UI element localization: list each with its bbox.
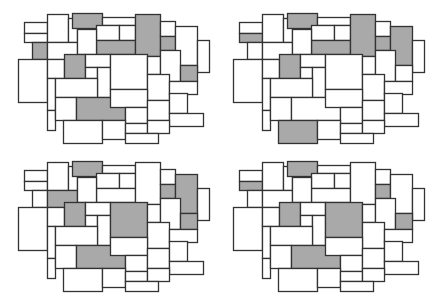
tile [103, 269, 126, 288]
panel-bottom-left [0, 148, 220, 301]
tile [341, 108, 363, 124]
tile [318, 166, 351, 174]
tile [19, 208, 48, 251]
tile [385, 94, 403, 114]
tile [48, 163, 69, 191]
tile [25, 182, 48, 191]
tile [56, 79, 98, 98]
tile [363, 57, 376, 75]
tile [161, 22, 176, 37]
tile [263, 163, 284, 191]
tile [240, 171, 263, 182]
tile [25, 34, 48, 43]
tile [263, 111, 271, 131]
tile [271, 98, 292, 121]
tile [385, 262, 419, 275]
tile [271, 79, 313, 98]
tile [170, 114, 204, 127]
highlighted-tile [161, 37, 176, 51]
tile [126, 272, 148, 282]
highlighted-tile [376, 185, 391, 199]
tile [248, 43, 263, 60]
tile [98, 68, 111, 98]
tile [271, 246, 292, 269]
tile [148, 101, 170, 121]
tile [312, 174, 335, 189]
tile [385, 230, 413, 243]
tile [318, 18, 351, 26]
highlighted-tile [280, 203, 301, 227]
highlighted-tile [376, 37, 391, 51]
highlighted-tile [33, 43, 48, 60]
tile [263, 259, 271, 279]
tile [326, 238, 363, 256]
panel-top-right [215, 0, 435, 153]
tile [318, 121, 341, 140]
tile [170, 82, 198, 95]
tile [111, 238, 148, 256]
tile [170, 242, 188, 262]
panel-top-left [0, 0, 220, 153]
tile [293, 30, 312, 55]
tile [148, 205, 161, 223]
tile [25, 171, 48, 182]
tile [341, 256, 363, 272]
highlighted-tile [396, 214, 413, 230]
tile [301, 216, 313, 227]
tile [103, 166, 136, 174]
tile [48, 111, 56, 131]
highlighted-tile [351, 15, 376, 57]
tile [293, 178, 312, 203]
tile [318, 269, 341, 288]
tiling-svg [0, 0, 226, 159]
tile [120, 26, 136, 41]
tile [385, 114, 419, 127]
highlighted-tile [136, 15, 161, 57]
tile [120, 174, 136, 189]
tiling-svg [215, 148, 441, 307]
highlighted-tile [161, 185, 176, 199]
tiling-svg [0, 148, 226, 307]
tile [148, 223, 170, 249]
tile [263, 208, 280, 227]
tile [170, 94, 188, 114]
tile [86, 203, 111, 216]
highlighted-tile [280, 55, 301, 79]
tile [98, 216, 111, 246]
tile [312, 189, 351, 203]
tile [103, 121, 126, 140]
highlighted-tile [97, 41, 136, 55]
tile [313, 68, 326, 98]
tile [263, 15, 284, 43]
tile [385, 82, 413, 95]
tile [64, 269, 103, 292]
tile [25, 23, 48, 34]
tile [335, 174, 351, 189]
tile [86, 55, 111, 68]
tile [97, 174, 120, 189]
tile [413, 189, 425, 221]
highlighted-tile [65, 55, 86, 79]
tile [19, 60, 48, 103]
tile [97, 189, 136, 203]
tile [48, 208, 65, 227]
tile [363, 121, 385, 134]
highlighted-tile [326, 203, 363, 238]
tile [301, 203, 326, 216]
tile [148, 75, 170, 101]
tile [363, 223, 385, 249]
tile [341, 134, 374, 144]
tile [413, 41, 425, 73]
tile [126, 108, 148, 124]
tile [170, 230, 198, 243]
tile [86, 68, 98, 79]
tile [126, 124, 148, 134]
tile [56, 227, 98, 246]
highlighted-tile [181, 214, 198, 230]
tile [148, 249, 170, 269]
tile [111, 55, 148, 90]
tile [161, 170, 176, 185]
tile [263, 227, 271, 259]
highlighted-tile [240, 34, 263, 43]
tile [279, 269, 318, 292]
